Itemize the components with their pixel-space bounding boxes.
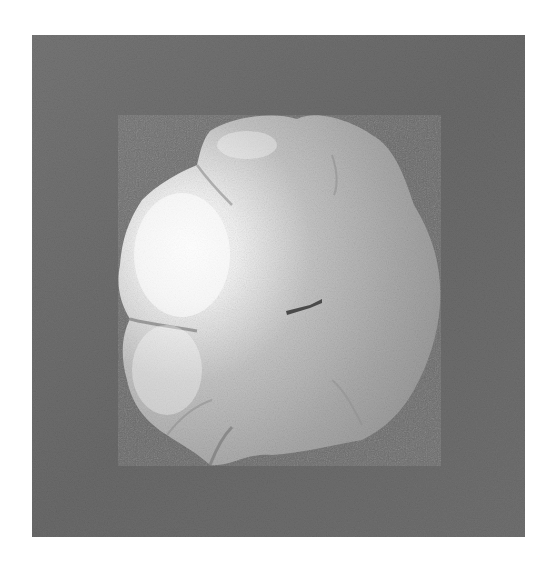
photograph <box>32 35 525 537</box>
airbag-photo-svg <box>32 35 525 537</box>
